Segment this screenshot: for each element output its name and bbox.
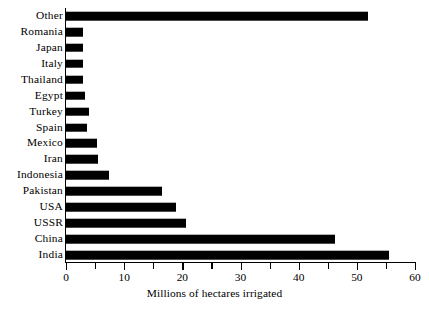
bar	[66, 235, 335, 244]
bar	[66, 107, 89, 116]
category-label: Indonesia	[17, 170, 63, 181]
bar	[66, 123, 87, 132]
bar	[66, 44, 83, 53]
x-tick-label: 0	[63, 272, 69, 283]
x-tick-label: 40	[293, 272, 304, 283]
bar	[66, 59, 83, 68]
x-tick	[153, 263, 154, 269]
x-tick-label: 20	[177, 272, 188, 283]
x-tick-label: 10	[118, 272, 129, 283]
category-label: Other	[36, 10, 63, 21]
category-label: Italy	[41, 58, 63, 69]
category-label: Turkey	[29, 106, 63, 117]
category-label: Thailand	[21, 74, 63, 85]
x-tick	[124, 263, 125, 270]
x-tick	[211, 263, 212, 269]
category-label: Japan	[36, 42, 63, 53]
category-label: Egypt	[35, 90, 63, 101]
x-tick	[66, 263, 67, 270]
bar	[66, 12, 368, 21]
bar	[66, 28, 83, 37]
category-label: India	[39, 249, 63, 260]
category-label: Iran	[44, 154, 63, 165]
category-label: USSR	[34, 217, 63, 228]
bar-chart: OtherRomaniaJapanItalyThailandEgyptTurke…	[0, 0, 429, 312]
bar	[66, 251, 389, 260]
bar	[66, 91, 85, 100]
x-tick	[270, 263, 271, 269]
bar	[66, 203, 176, 212]
category-label: USA	[40, 202, 63, 213]
x-tick-label: 50	[351, 272, 362, 283]
category-label: Mexico	[27, 138, 63, 149]
bar	[66, 187, 162, 196]
x-tick	[241, 263, 242, 270]
x-tick	[357, 263, 358, 270]
x-tick	[299, 263, 300, 270]
x-axis-title: Millions of hectares irrigated	[0, 288, 429, 299]
bar	[66, 75, 83, 84]
category-label: Romania	[20, 26, 63, 37]
category-label: Spain	[36, 122, 63, 133]
bar	[66, 171, 109, 180]
y-axis-line	[65, 8, 66, 263]
x-tick-label: 30	[235, 272, 246, 283]
bar	[66, 219, 186, 228]
bar	[66, 139, 97, 148]
bar	[66, 155, 98, 164]
x-tick	[386, 263, 387, 269]
category-label: China	[35, 233, 63, 244]
x-tick	[95, 263, 96, 269]
x-tick-label: 60	[409, 272, 420, 283]
x-tick	[182, 263, 183, 270]
category-label: Pakistan	[23, 186, 63, 197]
x-tick	[328, 263, 329, 269]
x-tick	[415, 263, 416, 270]
